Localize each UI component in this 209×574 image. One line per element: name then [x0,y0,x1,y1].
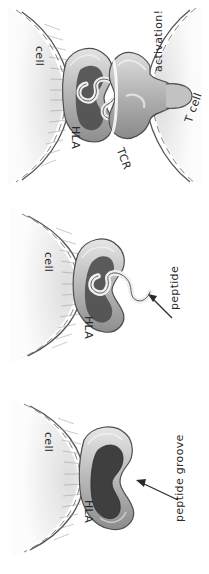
label-cell: cell [42,432,55,452]
label-hla: HLA [82,500,95,523]
apc-cell-body [10,208,82,364]
apc-cell-body [12,398,84,558]
label-hla: HLA [82,316,95,339]
label-hla: HLA [69,126,82,149]
apc-cell-body [8,6,70,186]
tcr-engagement-artwork [0,0,209,192]
hla-molecule [73,239,124,332]
peptide-loaded-panel: cell HLA peptide [0,190,209,382]
tcr-engagement-panel: cell HLA TCR activation! T cell [0,0,209,192]
empty-groove-panel: cell HLA peptide groove [0,382,209,574]
label-activation: activation! [152,10,165,72]
label-peptide: peptide [168,266,181,310]
label-peptide-groove: peptide groove [173,434,186,522]
label-cell: cell [42,252,55,272]
hla-tcr-figure: cell HLA TCR activation! T cell [0,0,209,574]
label-cell: cell [33,46,46,66]
groove-arrow [136,479,178,500]
